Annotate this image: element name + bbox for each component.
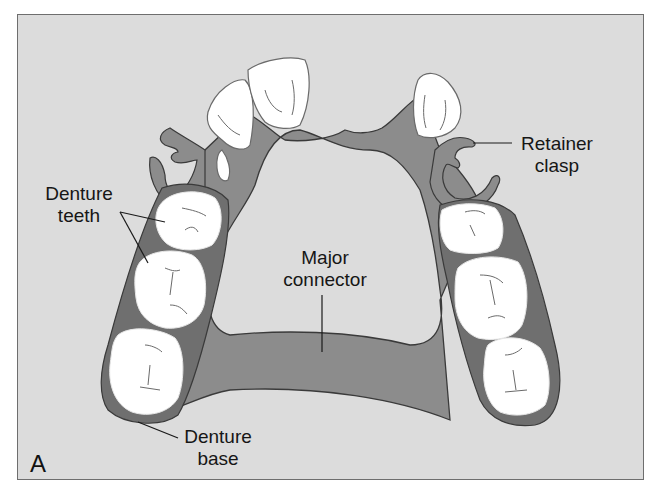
label-line: Denture xyxy=(178,426,258,448)
panel-letter: A xyxy=(30,452,46,476)
tooth-left-premolar xyxy=(156,192,221,250)
leader-denture-base xyxy=(138,422,178,438)
label-major-connector: Major connector xyxy=(270,247,380,291)
tooth-right-molar-2 xyxy=(484,338,550,415)
label-line: Major xyxy=(270,247,380,269)
tooth-canine-right xyxy=(414,73,461,137)
label-denture-base: Denture base xyxy=(178,426,258,470)
label-line: connector xyxy=(270,269,380,291)
tooth-incisor-central xyxy=(248,58,309,128)
label-line: Retainer xyxy=(512,133,602,155)
tooth-right-molar-1 xyxy=(455,257,527,340)
tooth-incisor-left-lateral xyxy=(207,80,253,149)
tooth-left-molar-2 xyxy=(110,329,183,414)
label-line: clasp xyxy=(512,155,602,177)
label-line: Denture xyxy=(38,183,120,205)
label-retainer-clasp: Retainer clasp xyxy=(512,133,602,177)
label-line: base xyxy=(178,448,258,470)
label-denture-teeth: Denture teeth xyxy=(38,183,120,227)
label-line: teeth xyxy=(38,205,120,227)
